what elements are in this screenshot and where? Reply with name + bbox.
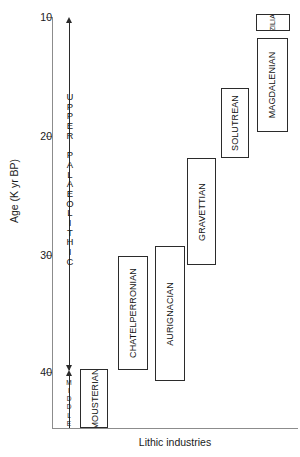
industry-label: MAGDALENIAN xyxy=(268,52,278,119)
industry-box-magdalenian[interactable]: MAGDALENIAN xyxy=(257,38,288,132)
industry-label: CHATELPERRONIAN xyxy=(128,268,138,358)
industry-box-aurignacian[interactable]: AURIGNACIAN xyxy=(155,246,185,381)
y-tick-group-40: 40 xyxy=(0,372,52,373)
industry-box-mousterian[interactable]: MOUSTERIAN xyxy=(80,369,108,428)
x-axis-title: Lithic industries xyxy=(52,436,298,448)
industry-box-solutrean[interactable]: SOLUTREAN xyxy=(221,88,249,158)
industry-label: AZILIAN xyxy=(270,14,277,31)
upper-palaeolithic-label: U P P E R P A L A E O L I T H I C xyxy=(62,92,78,266)
industry-label: GRAVETTIAN xyxy=(197,183,207,241)
y-axis-line xyxy=(52,17,53,428)
middle-palaeolithic-label: M I D D L E xyxy=(62,379,76,428)
y-tick-group-30: 30 xyxy=(0,255,52,256)
y-tick-label: 40 xyxy=(10,367,52,378)
y-tick-label: 30 xyxy=(10,250,52,261)
x-axis-line xyxy=(52,428,298,429)
y-tick-label: 10 xyxy=(10,12,52,23)
industry-box-gravettian[interactable]: GRAVETTIAN xyxy=(187,158,216,265)
industry-label: MOUSTERIAN xyxy=(89,369,99,428)
industry-label: AURIGNACIAN xyxy=(165,282,175,346)
industry-box-azilian[interactable]: AZILIAN xyxy=(256,14,290,31)
industry-label: SOLUTREAN xyxy=(230,95,240,151)
y-tick-group-10: 10 xyxy=(0,17,52,18)
lithic-industries-chart: 10 20 30 40 Age (K yr BP) Lithic industr… xyxy=(0,0,300,457)
industry-box-chatelperronian[interactable]: CHATELPERRONIAN xyxy=(118,256,148,370)
y-axis-title: Age (K yr BP) xyxy=(8,131,20,251)
